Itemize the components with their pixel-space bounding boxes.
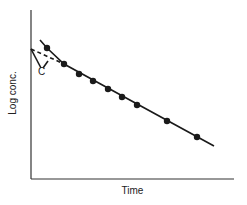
annotation-c: C: [38, 66, 45, 77]
data-point: [105, 86, 111, 92]
y-axis-label: Log conc.: [0, 58, 24, 128]
data-point: [44, 45, 50, 51]
data-point: [194, 134, 200, 140]
axes: [31, 10, 234, 179]
data-point: [90, 78, 96, 84]
x-axis-label: Time: [31, 185, 234, 196]
data-point: [164, 118, 170, 124]
chart-plot: [0, 0, 247, 205]
series-layer: [31, 40, 214, 146]
data-point: [76, 71, 82, 77]
fitted-line: [40, 40, 214, 146]
y-axis-label-text: Log conc.: [7, 71, 18, 114]
data-point: [134, 102, 140, 108]
data-point: [119, 94, 125, 100]
data-point: [61, 61, 67, 67]
